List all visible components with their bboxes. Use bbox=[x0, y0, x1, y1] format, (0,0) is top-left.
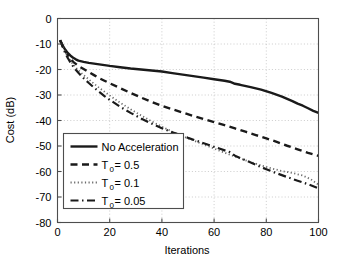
legend-label-0: No Acceleration bbox=[102, 141, 179, 153]
y-tick-label: -40 bbox=[36, 115, 52, 127]
cost-vs-iterations-chart: 0204060801000-10-20-30-40-50-60-70-80 No… bbox=[0, 0, 345, 264]
x-tick-label: 100 bbox=[309, 226, 327, 238]
y-tick-label: -10 bbox=[36, 38, 52, 50]
legend[interactable]: No AccelerationT0 = 0.5T0 = 0.1T0 = 0.05 bbox=[64, 134, 184, 210]
legend-label-2: T bbox=[102, 177, 109, 189]
y-tick-label: -20 bbox=[36, 64, 52, 76]
x-tick-label: 60 bbox=[208, 226, 220, 238]
x-axis-label: Iterations bbox=[164, 244, 210, 256]
y-tick-label: -70 bbox=[36, 191, 52, 203]
y-tick-label: -50 bbox=[36, 140, 52, 152]
x-tick-label: 80 bbox=[260, 226, 272, 238]
y-axis-label: Cost (dB) bbox=[4, 97, 16, 143]
x-tick-label: 20 bbox=[104, 226, 116, 238]
y-tick-label: -30 bbox=[36, 89, 52, 101]
y-tick-label: -80 bbox=[36, 217, 52, 229]
legend-label-suffix-2: = 0.1 bbox=[115, 177, 140, 189]
legend-label-3: T bbox=[102, 195, 109, 207]
x-tick-label: 0 bbox=[54, 226, 60, 238]
y-tick-label: 0 bbox=[45, 13, 51, 25]
legend-label-suffix-1: = 0.5 bbox=[115, 159, 140, 171]
x-tick-label: 40 bbox=[156, 226, 168, 238]
figure-container: 0204060801000-10-20-30-40-50-60-70-80 No… bbox=[0, 0, 345, 264]
legend-label-suffix-3: = 0.05 bbox=[115, 195, 146, 207]
y-tick-label: -60 bbox=[36, 166, 52, 178]
legend-label-1: T bbox=[102, 159, 109, 171]
